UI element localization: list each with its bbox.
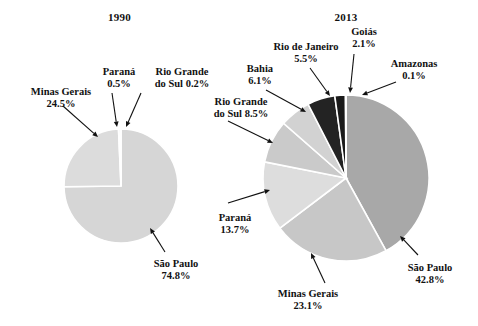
slice-label-value: do Sul 0.2%	[140, 78, 224, 90]
slice-label-value: 6.1%	[234, 75, 286, 87]
slice-label-name: Goiás	[351, 26, 377, 37]
leader-parana-2013	[228, 189, 270, 203]
pie-slice[interactable]	[345, 95, 346, 178]
slice-label-value: 5.5%	[258, 53, 354, 65]
leader-parana-1990	[112, 93, 119, 127]
leader-rio-grande-do-sul-2013	[228, 121, 273, 143]
leader-rio-de-janeiro-2013	[310, 68, 330, 96]
slice-label-value: 74.8%	[136, 270, 216, 282]
leader-sao-paulo-2013	[400, 236, 418, 255]
slice-label-minas-gerais: Minas Gerais23.1%	[265, 288, 351, 312]
slice-label-name: São Paulo	[408, 262, 453, 273]
slice-label-name: Amazonas	[391, 58, 438, 69]
pie-slice[interactable]	[120, 129, 121, 186]
slice-label-parana: Paraná0.5%	[95, 66, 143, 90]
leader-sao-paulo-1990	[150, 228, 165, 252]
figure-canvas: 1990 2013 Minas Gerais24.5%Paraná0.5%Rio…	[0, 0, 478, 326]
slice-label-value: 42.8%	[392, 274, 468, 286]
slice-label-name: Rio Grande	[156, 66, 209, 77]
slice-label-rio-grande-do-sul: Rio Grandedo Sul 8.5%	[197, 96, 285, 120]
slice-label-name: São Paulo	[154, 258, 199, 269]
slice-label-value: 23.1%	[265, 300, 351, 312]
slice-label-bahia: Bahia6.1%	[234, 63, 286, 87]
slice-label-sao-paulo: São Paulo42.8%	[392, 262, 468, 286]
slice-label-rio-grande-do-sul: Rio Grandedo Sul 0.2%	[140, 66, 224, 90]
leader-minas-gerais-1990	[63, 106, 98, 137]
slice-label-value: 24.5%	[14, 98, 108, 110]
slice-label-value: 2.1%	[340, 38, 388, 50]
slice-label-name: Paraná	[103, 66, 136, 77]
slice-label-value: 0.1%	[376, 70, 452, 82]
slice-label-name: Minas Gerais	[31, 86, 91, 97]
slice-label-name: Paraná	[219, 212, 252, 223]
slice-label-amazonas: Amazonas0.1%	[376, 58, 452, 82]
slice-label-name: Minas Gerais	[278, 288, 338, 299]
slice-label-value: 13.7%	[210, 224, 260, 236]
leader-amazonas-2013	[362, 82, 396, 95]
leader-rio-grande-do-sul-1990	[126, 93, 141, 127]
slice-label-goias: Goiás2.1%	[340, 26, 388, 50]
slice-label-name: Rio de Janeiro	[273, 41, 338, 52]
slice-label-parana: Paraná13.7%	[210, 212, 260, 236]
slice-label-value: do Sul 8.5%	[197, 108, 285, 120]
slice-label-minas-gerais: Minas Gerais24.5%	[14, 86, 108, 110]
slice-label-sao-paulo: São Paulo74.8%	[136, 258, 216, 282]
pie-slice[interactable]	[64, 129, 121, 187]
slice-label-value: 0.5%	[95, 78, 143, 90]
slice-label-name: Rio Grande	[215, 96, 268, 107]
